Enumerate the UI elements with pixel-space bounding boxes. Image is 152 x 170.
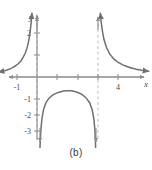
curve-right-tail xyxy=(130,68,148,72)
figure-caption: (b) xyxy=(0,147,152,158)
coordinate-plane: -1 4 2 -1 -2 -3 x y xyxy=(0,0,152,148)
y-tick-label-neg1: -1 xyxy=(24,95,31,104)
x-tick-label-neg1: -1 xyxy=(14,83,21,92)
graph-figure: -1 4 2 -1 -2 -3 x y xyxy=(0,0,152,148)
curve-right-branch xyxy=(100,13,130,68)
y-tick-label-neg3: -3 xyxy=(24,127,31,136)
asymptote-group xyxy=(37,18,98,140)
tick-group xyxy=(17,33,118,131)
x-tick-label-4: 4 xyxy=(116,83,120,92)
asymptote-arrow-group xyxy=(37,17,98,142)
curve-middle-branch xyxy=(40,91,96,148)
y-tick-label-neg2: -2 xyxy=(24,111,31,120)
curve-group xyxy=(0,13,149,148)
x-axis-label: x xyxy=(143,79,148,89)
curve-left-tail xyxy=(0,66,15,72)
